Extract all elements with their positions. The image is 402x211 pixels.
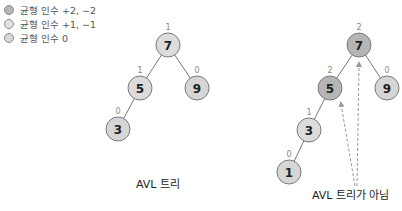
balance-factor: 1 [306, 108, 311, 117]
pointer-arrow [357, 64, 359, 186]
tree-node-5: 5 1 [128, 66, 152, 100]
tree-node-5: 5 2 [318, 66, 342, 100]
balance-factor: 0 [286, 150, 291, 159]
balance-factor: 1 [165, 23, 170, 32]
node-value: 7 [164, 39, 172, 53]
pointer-arrow [341, 104, 355, 186]
node-value: 5 [136, 82, 144, 96]
tree-node-7: 7 2 [347, 23, 371, 57]
node-value: 3 [305, 124, 313, 138]
node-value: 9 [193, 82, 201, 96]
node-value: 1 [285, 166, 293, 180]
avl-tree: 7 1 5 1 9 0 3 0 [106, 23, 209, 141]
balance-factor: 0 [115, 107, 120, 116]
node-value: 3 [114, 123, 122, 137]
tree-node-3: 3 0 [106, 107, 130, 141]
balance-factor: 1 [137, 66, 142, 75]
node-value: 7 [355, 39, 363, 53]
non-avl-tree-caption: AVL 트리가 아님 [312, 186, 389, 202]
balance-factor: 2 [327, 66, 332, 75]
avl-tree-caption: AVL 트리 [136, 175, 180, 191]
diagram-canvas: 7 1 5 1 9 0 3 0 7 2 [0, 0, 402, 211]
node-value: 5 [326, 82, 334, 96]
non-avl-tree: 7 2 5 2 9 0 3 1 1 0 [277, 23, 399, 186]
balance-factor: 0 [384, 66, 389, 75]
tree-node-9: 9 0 [375, 66, 399, 100]
tree-node-7: 7 1 [156, 23, 180, 57]
tree-node-9: 9 0 [185, 66, 209, 100]
balance-factor: 2 [356, 23, 361, 32]
balance-factor: 0 [194, 66, 199, 75]
node-value: 9 [383, 82, 391, 96]
